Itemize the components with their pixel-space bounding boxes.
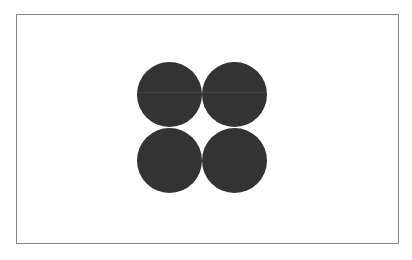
canvas-frame: [16, 14, 399, 244]
circle-top-left: [137, 62, 202, 127]
circle-bottom-right: [202, 128, 267, 193]
circle-top-right: [202, 62, 267, 127]
circle-seam-line: [138, 92, 266, 93]
circle-bottom-left: [137, 128, 202, 193]
